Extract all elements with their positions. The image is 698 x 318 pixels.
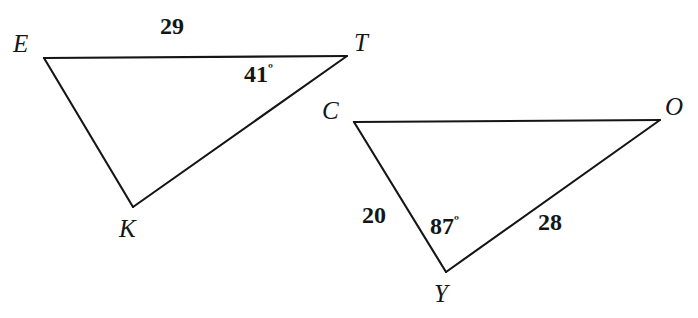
vertex-label-K: K xyxy=(119,216,136,241)
segment-OY xyxy=(446,120,660,272)
side-length-CY: 20 xyxy=(362,203,386,227)
triangle-coy-shape xyxy=(354,120,660,272)
vertex-label-T: T xyxy=(354,30,368,55)
segment-ET xyxy=(44,56,347,58)
degree-symbol-Y: º xyxy=(454,213,459,229)
vertex-label-O: O xyxy=(665,94,683,119)
segment-CO xyxy=(354,120,660,122)
segment-KE xyxy=(44,58,133,207)
degree-symbol-T: º xyxy=(268,61,273,77)
angle-value-Y: 87 xyxy=(430,213,454,239)
angle-value-T: 41 xyxy=(244,61,268,87)
vertex-label-E: E xyxy=(13,31,28,56)
segment-YC xyxy=(354,122,446,272)
triangles-canvas xyxy=(0,0,698,318)
side-length-ET: 29 xyxy=(160,14,184,38)
geometry-figure: E T K 29 41º C O Y 20 28 87º xyxy=(0,0,698,318)
triangle-ekt-shape xyxy=(44,56,347,207)
vertex-label-Y: Y xyxy=(434,281,448,306)
angle-measure-Y: 87º xyxy=(430,214,459,238)
vertex-label-C: C xyxy=(322,98,339,123)
angle-measure-T: 41º xyxy=(244,62,273,86)
side-length-YO: 28 xyxy=(538,210,562,234)
segment-TK xyxy=(133,56,347,207)
